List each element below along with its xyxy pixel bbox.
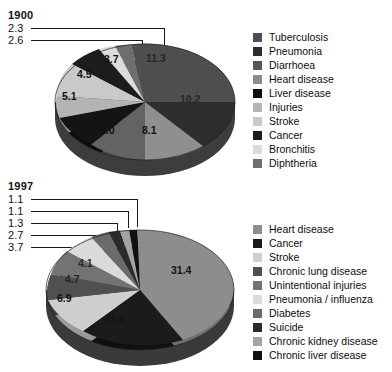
legend-label-1997-8: Chronic kidney disease xyxy=(269,336,378,347)
legend-label-6: Stroke xyxy=(269,116,299,127)
callout-label-1997-1: 1.1 xyxy=(8,205,24,217)
legend-item-stroke[interactable]: Stroke xyxy=(253,115,334,129)
callout-label-1997-4: 3.7 xyxy=(8,241,24,253)
legend-swatch-icon-1997-7 xyxy=(253,323,262,332)
chart-panel-1900: 1900 2.3 2.6 xyxy=(0,0,392,186)
leader-line-1900-0-h xyxy=(31,28,165,29)
legend-item-pneumonia[interactable]: Pneumonia xyxy=(253,44,334,58)
legend-item-chronic-kidney-disease[interactable]: Chronic kidney disease xyxy=(253,335,378,349)
legend-swatch-icon-4 xyxy=(253,89,262,98)
legend-label-0: Tuberculosis xyxy=(269,32,328,43)
legend-label-9: Diphtheria xyxy=(269,158,317,169)
legend-label-8: Bronchitis xyxy=(269,144,315,155)
legend-label-1997-4: Unintentional injuries xyxy=(269,280,366,291)
legend-label-1997-6: Diabetes xyxy=(269,308,310,319)
legend-swatch-icon-1997-2 xyxy=(253,253,262,262)
legend-item-diphtheria[interactable]: Diphtheria xyxy=(253,157,334,171)
chart-title-1900: 1900 xyxy=(8,9,33,21)
legend-swatch-icon-8 xyxy=(253,145,262,154)
legend-swatch-icon-1 xyxy=(253,47,262,56)
pie-svg-1900 xyxy=(52,30,238,178)
legend-label-4: Liver disease xyxy=(269,88,331,99)
legend-swatch-icon-1997-9 xyxy=(253,351,262,360)
legend-swatch-icon-1997-8 xyxy=(253,337,262,346)
legend-swatch-icon-0 xyxy=(253,33,262,42)
legend-item-diabetes[interactable]: Diabetes xyxy=(253,307,378,321)
callout-label-1997-3: 2.7 xyxy=(8,229,24,241)
legend-label-2: Diarrhoea xyxy=(269,60,315,71)
pie-chart-1900: 11.3 10.2 8.1 8.0 5.1 4.5 3.7 xyxy=(52,30,238,178)
callout-label-1900-0: 2.3 xyxy=(8,22,24,34)
legend-swatch-icon-3 xyxy=(253,75,262,84)
legend-item-chronic-lung-disease[interactable]: Chronic lung disease xyxy=(253,264,378,278)
leader-line-1997-1-h xyxy=(31,211,129,212)
legend-label-5: Injuries xyxy=(269,102,303,113)
legend-1997: Heart disease Cancer Stroke Chronic lung… xyxy=(253,222,378,363)
legend-item-bronchitis[interactable]: Bronchitis xyxy=(253,143,334,157)
legend-swatch-icon-1997-0 xyxy=(253,225,262,234)
legend-item-stroke-1997[interactable]: Stroke xyxy=(253,250,378,264)
legend-item-liver-disease[interactable]: Liver disease xyxy=(253,86,334,100)
legend-label-1: Pneumonia xyxy=(269,46,322,57)
legend-item-tuberculosis[interactable]: Tuberculosis xyxy=(253,30,334,44)
legend-swatch-icon-5 xyxy=(253,103,262,112)
legend-label-7: Cancer xyxy=(269,130,303,141)
callout-label-1997-0: 1.1 xyxy=(8,193,24,205)
legend-item-chronic-liver-disease[interactable]: Chronic liver disease xyxy=(253,349,378,363)
callout-label-1900-1: 2.6 xyxy=(8,34,24,46)
legend-swatch-icon-1997-1 xyxy=(253,239,262,248)
legend-swatch-icon-1997-5 xyxy=(253,295,262,304)
legend-item-suicide[interactable]: Suicide xyxy=(253,321,378,335)
legend-1900: Tuberculosis Pneumonia Diarrhoea Heart d… xyxy=(253,30,334,171)
callout-label-1997-2: 1.3 xyxy=(8,217,24,229)
legend-item-diarrhoea[interactable]: Diarrhoea xyxy=(253,58,334,72)
legend-label-1997-7: Suicide xyxy=(269,322,303,333)
legend-item-heart-disease[interactable]: Heart disease xyxy=(253,72,334,86)
legend-item-injuries[interactable]: Injuries xyxy=(253,100,334,114)
legend-swatch-icon-1997-3 xyxy=(253,267,262,276)
legend-item-unintentional-injuries[interactable]: Unintentional injuries xyxy=(253,278,378,292)
legend-label-3: Heart disease xyxy=(269,74,334,85)
legend-label-1997-3: Chronic lung disease xyxy=(269,266,367,277)
legend-swatch-icon-1997-6 xyxy=(253,309,262,318)
legend-item-heart-disease-1997[interactable]: Heart disease xyxy=(253,222,378,236)
legend-item-cancer[interactable]: Cancer xyxy=(253,129,334,143)
chart-panel-1997: 1997 1.1 1.1 1.3 2.7 3.7 xyxy=(0,178,392,372)
legend-label-1997-0: Heart disease xyxy=(269,224,334,235)
legend-label-1997-9: Chronic liver disease xyxy=(269,350,366,361)
legend-swatch-icon-9 xyxy=(253,159,262,168)
legend-item-cancer-1997[interactable]: Cancer xyxy=(253,236,378,250)
legend-label-1997-1: Cancer xyxy=(269,238,303,249)
legend-item-pneumonia-influenza[interactable]: Pneumonia / influenza xyxy=(253,292,378,306)
legend-swatch-icon-1997-4 xyxy=(253,281,262,290)
pie-chart-1997: 31.4 23.4 6.9 4.7 4.1 xyxy=(42,216,238,368)
legend-swatch-icon-6 xyxy=(253,117,262,126)
legend-label-1997-5: Pneumonia / influenza xyxy=(269,294,373,305)
legend-label-1997-2: Stroke xyxy=(269,252,299,263)
legend-swatch-icon-2 xyxy=(253,61,262,70)
leader-line-1997-0-h xyxy=(31,199,138,200)
legend-swatch-icon-7 xyxy=(253,131,262,140)
pie-svg-1997 xyxy=(42,216,238,368)
chart-title-1997: 1997 xyxy=(8,180,33,192)
